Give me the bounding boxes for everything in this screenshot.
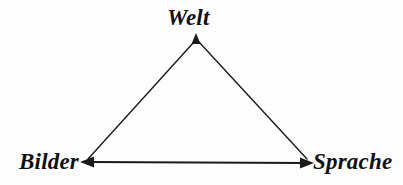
node-label-welt: Welt: [167, 6, 210, 29]
arrowhead-bilder-icon: [80, 157, 94, 168]
arrowhead-welt-icon: [192, 33, 201, 44]
edge-bilder-sprache: [88, 162, 306, 163]
edge-welt-sprache: [199, 42, 307, 159]
triangle-diagram: Welt Bilder Sprache: [0, 0, 403, 185]
node-label-sprache: Sprache: [313, 150, 392, 173]
node-label-bilder: Bilder: [19, 150, 79, 173]
edge-bilder-welt: [88, 42, 194, 159]
